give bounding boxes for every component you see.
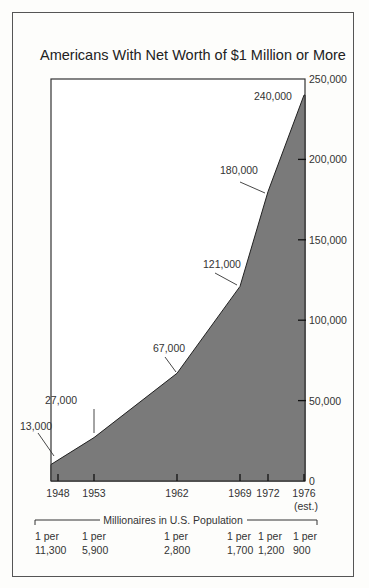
population-ratio-value: 900 [293, 544, 311, 556]
data-point-label: 121,000 [203, 258, 241, 270]
data-point-label: 240,000 [254, 90, 292, 102]
x-tick-label: 1972 [256, 487, 280, 499]
x-tick-label: 1976 [292, 487, 316, 499]
population-ratio-value: 1,200 [258, 544, 284, 556]
population-ratio-label: 1 per [164, 530, 188, 542]
population-ratio-value: 5,900 [82, 544, 108, 556]
population-ratio-label: 1 per [82, 530, 106, 542]
population-annotation: Millionaires in U.S. Population1 per11,3… [35, 514, 317, 556]
data-point-label: 27,000 [45, 394, 77, 406]
data-point-label: 13,000 [20, 420, 52, 432]
y-tick-label: 200,000 [309, 153, 347, 165]
y-tick-label: 0 [309, 475, 315, 487]
population-ratio-label: 1 per [227, 530, 251, 542]
area-chart: 050,000100,000150,000200,000250,000 1948… [0, 0, 369, 588]
x-tick-label: 1948 [46, 487, 70, 499]
y-tick-label: 250,000 [309, 73, 347, 85]
population-ratio-label: 1 per [293, 530, 317, 542]
population-ratio-value: 1,700 [227, 544, 253, 556]
x-tick-label: 1969 [228, 487, 252, 499]
y-tick-label: 150,000 [309, 234, 347, 246]
population-ratio-label: 1 per [35, 530, 59, 542]
x-tick-label: 1962 [165, 487, 189, 499]
x-tick-note: (est.) [294, 500, 318, 512]
data-point-label: 180,000 [220, 164, 258, 176]
population-ratio-value: 11,300 [35, 544, 66, 556]
population-ratio-value: 2,800 [164, 544, 190, 556]
data-point-label: 67,000 [153, 342, 185, 354]
y-tick-label: 100,000 [309, 314, 347, 326]
population-heading: Millionaires in U.S. Population [103, 514, 243, 526]
x-tick-label: 1953 [82, 487, 106, 499]
population-ratio-label: 1 per [258, 530, 282, 542]
y-tick-label: 50,000 [309, 395, 341, 407]
